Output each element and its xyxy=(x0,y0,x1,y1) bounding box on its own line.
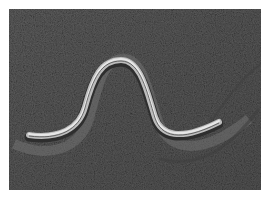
sand-scene xyxy=(9,9,261,190)
sand-background xyxy=(9,9,261,190)
photo xyxy=(9,9,261,190)
